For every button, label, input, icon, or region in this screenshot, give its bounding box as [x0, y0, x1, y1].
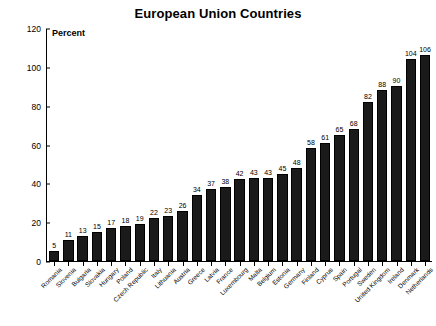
- bar-slot[interactable]: 23: [161, 29, 175, 261]
- bar-slot[interactable]: 43: [261, 29, 275, 261]
- bar-slot[interactable]: 58: [304, 29, 318, 261]
- bar-slot[interactable]: 15: [90, 29, 104, 261]
- y-tick-label: 60: [11, 141, 46, 151]
- bar-slot[interactable]: 43: [247, 29, 261, 261]
- bar-slot[interactable]: 106: [418, 29, 432, 261]
- bar-group: 5111315171819222326343738424343454858616…: [47, 29, 432, 261]
- bar-slot[interactable]: 82: [361, 29, 375, 261]
- bar-value-label: 45: [278, 165, 286, 173]
- bar-slot[interactable]: 22: [147, 29, 161, 261]
- bar[interactable]: [377, 90, 387, 261]
- bar-value-label: 90: [393, 77, 401, 85]
- bar[interactable]: [277, 174, 287, 261]
- bar-slot[interactable]: 19: [133, 29, 147, 261]
- bar-slot[interactable]: 34: [190, 29, 204, 261]
- bar-value-label: 68: [350, 120, 358, 128]
- bar-value-label: 48: [293, 159, 301, 167]
- bar-slot[interactable]: 38: [218, 29, 232, 261]
- bar-value-label: 34: [193, 186, 201, 194]
- y-tick-label: 80: [11, 102, 46, 112]
- bar-value-label: 106: [419, 46, 431, 54]
- bar-slot[interactable]: 37: [204, 29, 218, 261]
- bar[interactable]: [406, 59, 416, 261]
- y-tick-label: 0: [11, 257, 46, 267]
- bar-value-label: 37: [207, 180, 215, 188]
- bar-value-label: 23: [164, 207, 172, 215]
- bar-value-label: 82: [364, 93, 372, 101]
- y-tick-label: 100: [11, 63, 46, 73]
- bar-value-label: 43: [264, 169, 272, 177]
- bar-value-label: 88: [378, 81, 386, 89]
- bar-slot[interactable]: 5: [47, 29, 61, 261]
- bar-slot[interactable]: 61: [318, 29, 332, 261]
- bar-slot[interactable]: 88: [375, 29, 389, 261]
- bar[interactable]: [291, 168, 301, 261]
- bar-value-label: 13: [79, 227, 87, 235]
- bar[interactable]: [49, 251, 59, 261]
- bar-slot[interactable]: 42: [232, 29, 246, 261]
- bar-slot[interactable]: 90: [389, 29, 403, 261]
- bar-value-label: 61: [321, 134, 329, 142]
- bar-slot[interactable]: 65: [332, 29, 346, 261]
- bar[interactable]: [363, 102, 373, 261]
- chart-title: European Union Countries: [0, 6, 436, 21]
- bar-slot[interactable]: 45: [275, 29, 289, 261]
- x-axis-label-group: RomaniaSloveniaBulgariaSlovakiaHungaryPo…: [47, 266, 432, 326]
- bar[interactable]: [249, 178, 259, 261]
- bar[interactable]: [220, 187, 230, 261]
- bar-value-label: 22: [150, 209, 158, 217]
- bar[interactable]: [349, 129, 359, 261]
- bar-value-label: 17: [107, 219, 115, 227]
- bar[interactable]: [334, 135, 344, 261]
- bar[interactable]: [306, 148, 316, 261]
- bar-value-label: 5: [52, 242, 56, 250]
- bar-value-label: 58: [307, 139, 315, 147]
- bar-value-label: 38: [221, 178, 229, 186]
- bar[interactable]: [234, 179, 244, 261]
- bar-slot[interactable]: 17: [104, 29, 118, 261]
- bar-slot[interactable]: 18: [118, 29, 132, 261]
- bar[interactable]: [206, 189, 216, 261]
- bar-slot[interactable]: 13: [76, 29, 90, 261]
- y-tick-label: 20: [11, 218, 46, 228]
- bar-value-label: 15: [93, 223, 101, 231]
- plot-area: 020406080100120 511131517181922232634373…: [46, 29, 432, 262]
- bar-slot[interactable]: 104: [404, 29, 418, 261]
- y-tick-label: 40: [11, 179, 46, 189]
- bar-value-label: 19: [136, 215, 144, 223]
- bar-slot[interactable]: 68: [347, 29, 361, 261]
- bar[interactable]: [391, 86, 401, 261]
- bar-slot[interactable]: 11: [61, 29, 75, 261]
- bar-value-label: 18: [122, 217, 130, 225]
- bar-value-label: 42: [236, 170, 244, 178]
- bar-value-label: 43: [250, 169, 258, 177]
- bar-slot[interactable]: 48: [290, 29, 304, 261]
- bar-value-label: 26: [179, 202, 187, 210]
- bar-slot[interactable]: 26: [175, 29, 189, 261]
- bar[interactable]: [320, 143, 330, 261]
- bar[interactable]: [420, 55, 430, 261]
- bar-value-label: 104: [405, 50, 417, 58]
- bar-value-label: 65: [336, 126, 344, 134]
- bar-value-label: 11: [65, 231, 72, 239]
- y-tick-label: 120: [11, 24, 46, 34]
- chart-root: European Union Countries Percent 0204060…: [0, 0, 436, 326]
